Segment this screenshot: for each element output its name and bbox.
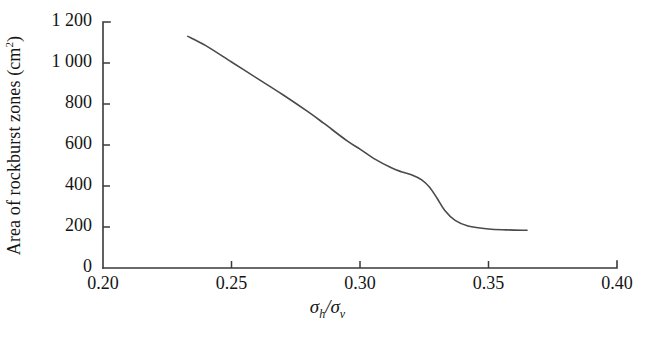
y-tick-label: 400: [65, 174, 92, 194]
x-axis-label-subscript-h: h: [319, 307, 325, 321]
y-tick-label: 1 000: [52, 51, 93, 71]
x-tick-label: 0.25: [216, 273, 248, 293]
x-axis-label: σh/σv: [0, 296, 655, 318]
x-tick-label: 0.35: [473, 273, 505, 293]
y-tick-mark-group: [103, 63, 110, 227]
chart-figure: Area of rockburst zones (cm2) 0200400600…: [0, 0, 655, 346]
x-tick-label-group: 0.200.250.300.350.40: [87, 273, 633, 293]
y-tick-label-group: 02004006008001 0001 200: [52, 10, 93, 276]
x-tick-label: 0.20: [87, 273, 119, 293]
y-tick-label: 200: [65, 215, 92, 235]
data-series-line: [188, 36, 527, 230]
y-tick-label: 1 200: [52, 10, 93, 30]
x-axis-label-text: σh/σv: [310, 296, 345, 317]
x-tick-mark-group: [232, 261, 489, 268]
x-axis-label-subscript-v: v: [340, 307, 345, 321]
y-tick-label: 600: [65, 133, 92, 153]
plot-area: 02004006008001 0001 200 0.200.250.300.35…: [0, 0, 655, 346]
x-tick-label: 0.30: [344, 273, 376, 293]
y-tick-label: 800: [65, 92, 92, 112]
x-tick-label: 0.40: [601, 273, 633, 293]
